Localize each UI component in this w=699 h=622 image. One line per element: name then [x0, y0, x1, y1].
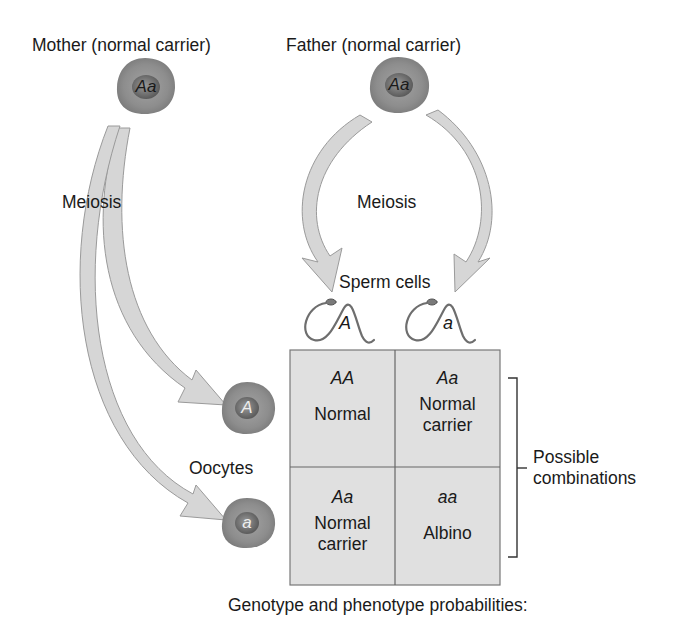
cell-genotype: AA [290, 368, 395, 389]
sperm-a-allele: a [440, 313, 456, 334]
oocytes-label: Oocytes [189, 460, 253, 478]
mother-genotype: Aa [130, 77, 162, 97]
mother-meiosis-arrow-to-A [103, 128, 226, 405]
cell-genotype: Aa [395, 368, 500, 389]
father-meiosis-label: Meiosis [357, 194, 416, 212]
possible-combinations-label: Possible combinations [533, 447, 663, 489]
sperm-A-allele: A [337, 313, 353, 334]
punnett-cell-Aa-top: Aa Normal carrier [395, 368, 500, 436]
father-label: Father (normal carrier) [286, 37, 461, 55]
cell-genotype: aa [395, 487, 500, 508]
caption: Genotype and phenotype probabilities: [228, 597, 528, 615]
sperm-cells-label: Sperm cells [339, 274, 430, 292]
cell-genotype: Aa [290, 487, 395, 508]
oocyte-a-allele: a [237, 513, 257, 533]
cell-phenotype: Normal [290, 404, 395, 425]
punnett-cell-Aa-bottom: Aa Normal carrier [290, 487, 395, 555]
cell-phenotype: Normal carrier [413, 394, 483, 436]
father-meiosis-arrow-to-a [426, 110, 492, 292]
mother-meiosis-label: Meiosis [62, 194, 121, 212]
punnett-cell-aa: aa Albino [395, 487, 500, 544]
punnett-cell-AA: AA Normal [290, 368, 395, 425]
father-genotype: Aa [383, 75, 415, 95]
possible-combinations-bracket [508, 378, 527, 557]
cell-phenotype: Albino [395, 523, 500, 544]
oocyte-A-allele: A [237, 398, 257, 418]
cell-phenotype: Normal carrier [308, 513, 378, 555]
mother-label: Mother (normal carrier) [32, 37, 211, 55]
